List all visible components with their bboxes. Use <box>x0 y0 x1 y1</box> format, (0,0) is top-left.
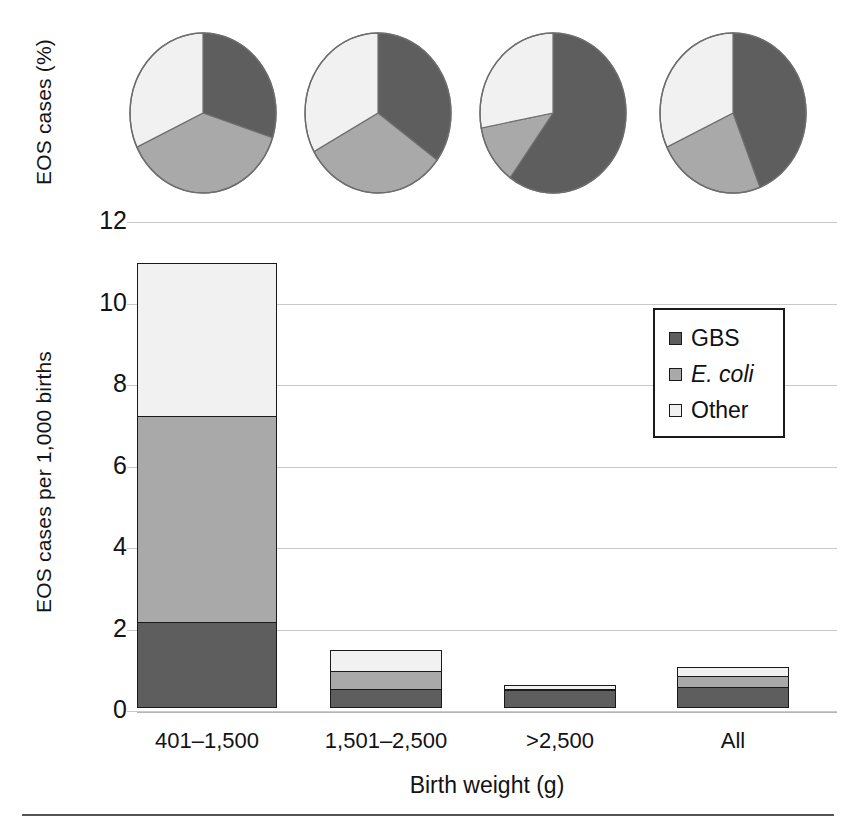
pie-chart-1 <box>120 22 286 204</box>
bar-segment-e-coli <box>137 416 277 624</box>
bar-segment-gbs <box>330 689 442 707</box>
gridline-0 <box>137 711 837 712</box>
pie-chart-2 <box>295 22 461 204</box>
legend-swatch-icon <box>669 404 682 417</box>
bar-segment-gbs <box>504 690 616 708</box>
x-tick-label-2: 1,501–2,500 <box>300 728 472 754</box>
x-axis-title: Birth weight (g) <box>137 772 837 799</box>
y-tick-label-8: 8 <box>81 369 127 398</box>
bar-2 <box>330 650 442 711</box>
bar-1 <box>137 263 277 711</box>
y-tick-label-12: 12 <box>81 206 127 235</box>
y-tick-label-0: 0 <box>81 695 127 724</box>
x-tick-label-4: All <box>647 728 819 754</box>
bar-y-axis-title: EOS cases per 1,000 births <box>32 282 56 682</box>
y-axis-tick-labels: 121086420 <box>75 222 127 712</box>
legend-swatch-icon <box>669 332 682 345</box>
x-tick-label-1: 401–1,500 <box>107 728 307 754</box>
y-tick-label-6: 6 <box>81 451 127 480</box>
legend-label: Other <box>691 397 749 424</box>
legend-item-other[interactable]: Other <box>669 392 783 428</box>
y-tick-label-4: 4 <box>81 532 127 561</box>
bar-segment-other <box>137 263 277 418</box>
bar-segment-gbs <box>137 622 277 708</box>
pie-chart-row <box>120 22 840 204</box>
legend-label: E. coli <box>691 361 754 388</box>
legend-swatch-icon <box>669 368 682 381</box>
gridline-12 <box>137 222 837 223</box>
pie-y-axis-title: EOS cases (%) <box>32 22 56 202</box>
legend-item-e-coli[interactable]: E. coli <box>669 356 783 392</box>
bar-chart-plot <box>137 222 837 712</box>
bar-segment-gbs <box>677 687 789 708</box>
y-tick-label-10: 10 <box>81 288 127 317</box>
chart-legend: GBSE. coliOther <box>653 308 785 438</box>
bar-4 <box>677 667 789 711</box>
bar-segment-e-coli <box>330 671 442 691</box>
y-tick-label-2: 2 <box>81 614 127 643</box>
pie-chart-4 <box>650 22 816 204</box>
legend-item-gbs[interactable]: GBS <box>669 320 783 356</box>
pie-chart-3 <box>470 22 636 204</box>
x-tick-label-3: >2,500 <box>474 728 646 754</box>
bar-3 <box>504 685 616 711</box>
footer-divider <box>22 814 834 816</box>
bar-segment-other <box>330 650 442 672</box>
legend-label: GBS <box>691 325 740 352</box>
